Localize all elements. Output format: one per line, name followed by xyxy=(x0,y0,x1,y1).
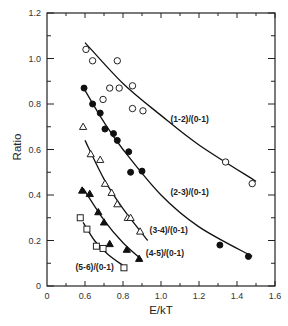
data-point-open-circle xyxy=(140,108,146,114)
y-tick-label: 0.6 xyxy=(28,145,41,155)
x-tick-label: 1.0 xyxy=(155,291,168,301)
data-point-open-circle xyxy=(83,46,89,52)
x-tick-label: 0.6 xyxy=(79,291,92,301)
data-point-open-circle xyxy=(107,85,113,91)
data-point-filled-circle xyxy=(102,126,108,132)
data-point-open-circle xyxy=(249,180,255,186)
y-tick-label: 0.8 xyxy=(28,99,41,109)
data-point-filled-circle xyxy=(139,168,145,174)
x-tick-label: 0 xyxy=(44,291,49,301)
y-tick-label: 0.4 xyxy=(28,190,41,200)
data-point-filled-circle xyxy=(128,169,134,175)
data-point-open-circle xyxy=(114,58,120,64)
data-point-filled-circle xyxy=(217,242,223,248)
data-point-open-circle xyxy=(116,85,122,91)
data-point-filled-circle xyxy=(90,101,96,107)
series-label-3: (3-4)/(0-1) xyxy=(150,225,188,235)
data-point-filled-triangle xyxy=(86,190,93,196)
data-point-filled-circle xyxy=(126,149,132,155)
x-tick-label: 1.4 xyxy=(231,291,244,301)
data-point-filled-circle xyxy=(111,131,117,137)
y-tick-label: 0.2 xyxy=(28,236,41,246)
fit-curve-1 xyxy=(85,43,256,182)
fit-curve-3 xyxy=(85,140,148,240)
y-tick-label: 0 xyxy=(36,281,41,291)
data-point-open-triangle xyxy=(97,156,104,162)
data-point-filled-circle xyxy=(81,85,87,91)
data-point-filled-triangle xyxy=(100,219,107,225)
y-tick-label: 1.0 xyxy=(28,54,41,64)
data-point-open-circle xyxy=(129,83,135,89)
data-point-filled-circle xyxy=(97,110,103,116)
data-point-filled-triangle xyxy=(106,240,113,246)
x-tick-label: 1.2 xyxy=(193,291,206,301)
series-label-4: (4-5)/(0-1) xyxy=(146,248,184,258)
data-point-open-circle xyxy=(129,105,135,111)
data-point-open-square xyxy=(93,243,99,249)
data-point-open-circle xyxy=(100,96,106,102)
x-axis-title: E/kT xyxy=(149,304,173,316)
x-tick-label: 0.8 xyxy=(117,291,130,301)
y-tick-label: 1.2 xyxy=(28,8,41,18)
data-point-open-square xyxy=(121,265,127,271)
plot-frame xyxy=(47,13,275,286)
data-point-open-circle xyxy=(89,58,95,64)
data-point-filled-circle xyxy=(114,137,120,143)
fit-curve-4 xyxy=(83,188,142,260)
data-point-open-triangle xyxy=(108,189,115,195)
data-point-open-triangle xyxy=(80,123,87,129)
series-label-1: (1-2)/(0-1) xyxy=(171,114,209,124)
series-label-5: (5-6)/(0-1) xyxy=(76,262,114,272)
data-point-open-circle xyxy=(222,159,228,165)
data-point-open-square xyxy=(77,215,83,221)
series-label-2: (2-3)/(0-1) xyxy=(171,187,209,197)
data-point-open-square xyxy=(100,245,106,251)
data-point-filled-circle xyxy=(245,253,251,259)
x-tick-label: 1.6 xyxy=(269,291,282,301)
data-point-filled-triangle xyxy=(95,208,102,214)
y-axis-title: Ratio xyxy=(11,134,23,161)
chart: 00.60.81.01.21.41.600.20.40.60.81.01.2 (… xyxy=(0,0,288,326)
data-point-open-triangle xyxy=(101,180,108,186)
data-point-open-triangle xyxy=(87,150,94,156)
data-point-open-square xyxy=(84,226,90,232)
data-markers xyxy=(77,46,255,271)
